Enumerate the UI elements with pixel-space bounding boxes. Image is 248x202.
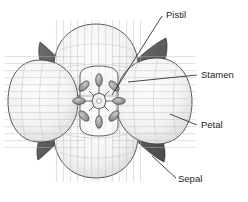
- label-petal: Petal: [201, 119, 223, 130]
- label-sepal: Sepal: [178, 173, 202, 184]
- flower-anatomy-figure: Pistil Stamen Petal Sepal: [0, 0, 248, 202]
- label-pistil: Pistil: [166, 9, 186, 20]
- label-stamen: Stamen: [201, 69, 234, 80]
- flower-diagram: Pistil Stamen Petal Sepal: [0, 0, 248, 202]
- petal-left: [4, 56, 84, 148]
- pistil: [92, 93, 106, 109]
